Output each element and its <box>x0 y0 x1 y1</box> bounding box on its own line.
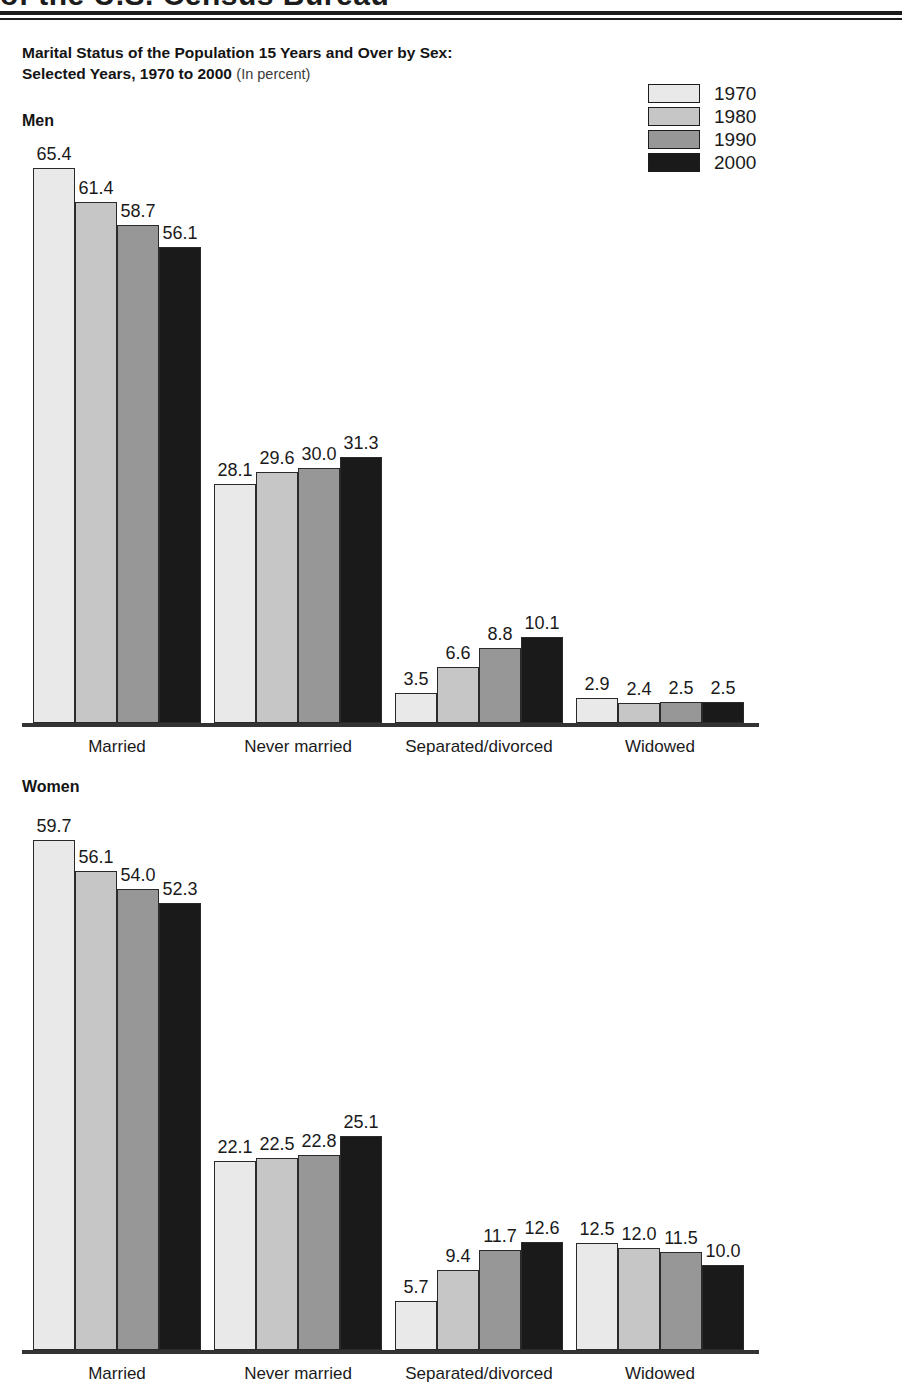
legend-label-1980: 1980 <box>714 107 756 126</box>
bar-married-2000 <box>159 903 201 1350</box>
bar-widowed-1970 <box>576 1243 618 1350</box>
bar-separated-divorced-1980 <box>437 1270 479 1350</box>
bar-never-married-1990 <box>298 468 340 723</box>
panel-heading-women: Women <box>22 778 79 796</box>
bar-separated-divorced-1980 <box>437 667 479 723</box>
bar-widowed-1990 <box>660 702 702 723</box>
legend-label-1970: 1970 <box>714 84 756 103</box>
bar-widowed-2000 <box>702 702 744 723</box>
bar-value-label: 3.5 <box>389 670 443 689</box>
bar-married-1970 <box>33 840 75 1350</box>
bar-married-1990 <box>117 225 159 723</box>
masthead: of the U.S. Census Bureau <box>0 0 902 22</box>
bar-separated-divorced-1990 <box>479 648 521 723</box>
bar-widowed-1980 <box>618 1248 660 1350</box>
panel-heading-men: Men <box>22 112 54 130</box>
chart-title-units-note: (In percent) <box>236 66 310 82</box>
bar-never-married-1980 <box>256 472 298 723</box>
bar-value-label: 12.6 <box>515 1219 569 1238</box>
bar-married-1980 <box>75 871 117 1350</box>
bar-widowed-1970 <box>576 698 618 723</box>
chart-title-line-1: Marital Status of the Population 15 Year… <box>22 42 642 63</box>
bar-value-label: 52.3 <box>153 880 207 899</box>
bar-never-married-2000 <box>340 457 382 723</box>
bar-chart-women: 59.756.154.052.3Married22.122.522.825.1N… <box>22 808 782 1383</box>
bar-never-married-1970 <box>214 1161 256 1350</box>
bar-widowed-2000 <box>702 1265 744 1350</box>
bar-value-label: 61.4 <box>69 179 123 198</box>
bar-value-label: 6.6 <box>431 644 485 663</box>
category-label-widowed: Widowed <box>536 1364 784 1384</box>
x-axis-line <box>22 723 759 727</box>
bar-value-label: 65.4 <box>27 145 81 164</box>
category-label-widowed: Widowed <box>536 737 784 757</box>
chart-title-line-2-main: Selected Years, 1970 to 2000 <box>22 65 232 82</box>
chart-title-line-2: Selected Years, 1970 to 2000 (In percent… <box>22 63 642 85</box>
bar-widowed-1990 <box>660 1252 702 1350</box>
bar-value-label: 10.0 <box>696 1242 750 1261</box>
plot-area: 59.756.154.052.3Married22.122.522.825.1N… <box>22 808 782 1383</box>
bar-value-label: 56.1 <box>69 848 123 867</box>
bar-married-2000 <box>159 247 201 723</box>
x-axis-line <box>22 1350 759 1354</box>
masthead-rule-thick <box>0 11 902 15</box>
bar-married-1980 <box>75 202 117 723</box>
bar-value-label: 31.3 <box>334 434 388 453</box>
bar-widowed-1980 <box>618 703 660 723</box>
bar-value-label: 10.1 <box>515 614 569 633</box>
bar-never-married-1970 <box>214 484 256 723</box>
bar-value-label: 2.5 <box>696 679 750 698</box>
bar-married-1970 <box>33 168 75 723</box>
bar-married-1990 <box>117 889 159 1350</box>
masthead-rule-thin <box>0 18 902 20</box>
bar-never-married-1990 <box>298 1155 340 1350</box>
bar-value-label: 25.1 <box>334 1113 388 1132</box>
bar-separated-divorced-1990 <box>479 1250 521 1350</box>
bar-never-married-2000 <box>340 1136 382 1350</box>
legend-swatch-1980 <box>648 107 700 126</box>
legend-item-1980: 1980 <box>648 105 756 128</box>
bar-value-label: 58.7 <box>111 202 165 221</box>
bar-value-label: 22.8 <box>292 1132 346 1151</box>
bar-never-married-1980 <box>256 1158 298 1350</box>
bar-separated-divorced-1970 <box>395 1301 437 1350</box>
bar-separated-divorced-2000 <box>521 1242 563 1350</box>
bar-value-label: 9.4 <box>431 1247 485 1266</box>
bar-separated-divorced-1970 <box>395 693 437 723</box>
bar-value-label: 56.1 <box>153 224 207 243</box>
legend-swatch-1970 <box>648 84 700 103</box>
bar-separated-divorced-2000 <box>521 637 563 723</box>
plot-area: 65.461.458.756.1Married28.129.630.031.3N… <box>22 140 782 765</box>
bar-value-label: 5.7 <box>389 1278 443 1297</box>
legend-item-1970: 1970 <box>648 82 756 105</box>
chart-title-block: Marital Status of the Population 15 Year… <box>22 42 642 85</box>
bar-chart-men: 65.461.458.756.1Married28.129.630.031.3N… <box>22 140 782 765</box>
bar-value-label: 59.7 <box>27 817 81 836</box>
